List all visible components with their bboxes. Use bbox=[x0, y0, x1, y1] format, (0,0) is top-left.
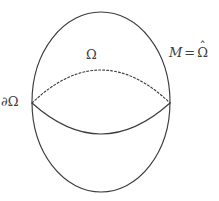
dashed-upper-arc bbox=[32, 70, 170, 103]
omega-glyph: Ω bbox=[8, 94, 19, 109]
label-boundary: ∂Ω bbox=[1, 95, 19, 108]
manifold-symbol: M bbox=[169, 45, 182, 60]
hat-accent-icon: ˆ bbox=[200, 41, 206, 53]
partial-derivative-symbol: ∂ bbox=[1, 94, 8, 109]
label-interior-region: Ω bbox=[86, 48, 97, 61]
omega-hat-group: ˆΩ bbox=[197, 46, 208, 59]
solid-lower-arc bbox=[32, 103, 170, 134]
omega-glyph: Ω bbox=[86, 47, 97, 62]
outer-ellipse bbox=[32, 12, 170, 192]
diagram-svg bbox=[0, 0, 219, 201]
label-manifold: M=ˆΩ bbox=[169, 46, 208, 59]
figure-canvas: Ω ∂Ω M=ˆΩ bbox=[0, 0, 219, 201]
equals-sign: = bbox=[182, 45, 197, 60]
